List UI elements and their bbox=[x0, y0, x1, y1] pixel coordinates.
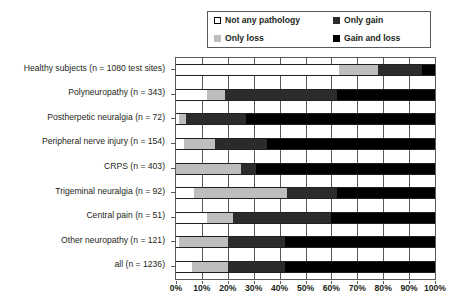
y-axis-labels: Healthy subjects (n = 1080 test sites)Po… bbox=[0, 57, 170, 280]
x-tick-label: 40% bbox=[271, 283, 288, 293]
bar-segment-not-any-pathology bbox=[176, 90, 207, 100]
bar-segment-only-gain bbox=[228, 262, 285, 272]
legend-item-not-any-pathology: Not any pathology bbox=[214, 16, 333, 25]
legend-label-gain-and-loss: Gain and loss bbox=[344, 34, 400, 43]
x-tick-label: 70% bbox=[349, 283, 366, 293]
x-tick-label: 60% bbox=[323, 283, 340, 293]
bar-row bbox=[176, 163, 435, 175]
bar-segment-not-any-pathology bbox=[176, 139, 184, 149]
bar-segment-only-gain bbox=[228, 237, 285, 247]
legend-label-only-gain: Only gain bbox=[344, 16, 383, 25]
y-axis-label: Other neuropathy (n = 121) bbox=[61, 236, 165, 245]
bar-segment-gain-and-loss bbox=[331, 213, 435, 223]
bar-row bbox=[176, 187, 435, 199]
bar-segment-only-gain bbox=[233, 213, 331, 223]
legend-swatch-not-any-pathology bbox=[214, 17, 221, 24]
bar-row bbox=[176, 64, 435, 76]
bar-segment-not-any-pathology bbox=[176, 262, 192, 272]
bar-segment-only-loss bbox=[339, 65, 378, 75]
legend-item-gain-and-loss: Gain and loss bbox=[333, 34, 438, 43]
bar-segment-gain-and-loss bbox=[256, 164, 435, 174]
bar-segment-only-gain bbox=[241, 164, 257, 174]
bar-segment-gain-and-loss bbox=[285, 262, 435, 272]
legend-swatch-gain-and-loss bbox=[333, 35, 340, 42]
bar-segment-gain-and-loss bbox=[285, 237, 435, 247]
x-tick-label: 30% bbox=[245, 283, 262, 293]
chart-legend: Not any pathology Only gain Only loss Ga… bbox=[207, 11, 431, 48]
bar-row bbox=[176, 236, 435, 248]
bar-segment-only-loss bbox=[192, 262, 228, 272]
bar-row bbox=[176, 113, 435, 125]
plot-area bbox=[175, 57, 436, 280]
x-tick-label: 0% bbox=[170, 283, 182, 293]
bar-row bbox=[176, 138, 435, 150]
bar-segment-only-gain bbox=[287, 188, 336, 198]
y-axis-label: Polyneuropathy (n = 343) bbox=[68, 88, 165, 97]
legend-label-only-loss: Only loss bbox=[225, 34, 264, 43]
y-axis-label: all (n = 1236) bbox=[115, 260, 165, 269]
stacked-bar-chart: Not any pathology Only gain Only loss Ga… bbox=[0, 0, 455, 306]
bar-segment-gain-and-loss bbox=[337, 90, 435, 100]
bar-segment-gain-and-loss bbox=[246, 114, 435, 124]
x-tick-label: 20% bbox=[219, 283, 236, 293]
legend-label-not-any-pathology: Not any pathology bbox=[225, 16, 300, 25]
x-tick-label: 100% bbox=[424, 283, 446, 293]
bar-segment-only-gain bbox=[186, 114, 246, 124]
legend-item-only-gain: Only gain bbox=[333, 16, 438, 25]
bar-segment-not-any-pathology bbox=[176, 188, 194, 198]
x-tick-label: 90% bbox=[400, 283, 417, 293]
y-axis-label: CRPS (n = 403) bbox=[104, 162, 165, 171]
legend-item-only-loss: Only loss bbox=[214, 34, 333, 43]
bar-segment-only-loss bbox=[176, 164, 241, 174]
bar-segment-only-loss bbox=[179, 237, 228, 247]
x-axis-labels: 0%10%20%30%40%50%60%70%80%90%100% bbox=[175, 283, 436, 299]
y-axis-label: Postherpetic neuralgia (n = 72) bbox=[47, 113, 165, 122]
legend-swatch-only-gain bbox=[333, 17, 340, 24]
bar-series bbox=[176, 58, 435, 279]
bar-segment-gain-and-loss bbox=[337, 188, 435, 198]
bar-segment-only-gain bbox=[225, 90, 336, 100]
bar-segment-only-loss bbox=[207, 90, 225, 100]
bar-segment-gain-and-loss bbox=[422, 65, 435, 75]
bar-segment-only-loss bbox=[184, 139, 215, 149]
y-axis-label: Healthy subjects (n = 1080 test sites) bbox=[24, 64, 165, 73]
y-axis-label: Trigeminal neuralgia (n = 92) bbox=[55, 187, 165, 196]
bar-segment-not-any-pathology bbox=[176, 213, 207, 223]
bar-segment-only-gain bbox=[378, 65, 422, 75]
bar-row bbox=[176, 261, 435, 273]
legend-swatch-only-loss bbox=[214, 35, 221, 42]
y-axis-label: Central pain (n = 51) bbox=[86, 211, 165, 220]
bar-segment-only-loss bbox=[179, 114, 187, 124]
x-tick-label: 50% bbox=[297, 283, 314, 293]
y-axis-label: Peripheral nerve injury (n = 154) bbox=[42, 137, 165, 146]
bar-segment-not-any-pathology bbox=[176, 65, 339, 75]
x-tick-label: 10% bbox=[193, 283, 210, 293]
bar-segment-only-gain bbox=[215, 139, 267, 149]
bar-row bbox=[176, 89, 435, 101]
bar-segment-only-loss bbox=[194, 188, 287, 198]
bar-segment-gain-and-loss bbox=[267, 139, 435, 149]
bar-row bbox=[176, 212, 435, 224]
bar-segment-only-loss bbox=[207, 213, 233, 223]
x-tick-label: 80% bbox=[375, 283, 392, 293]
